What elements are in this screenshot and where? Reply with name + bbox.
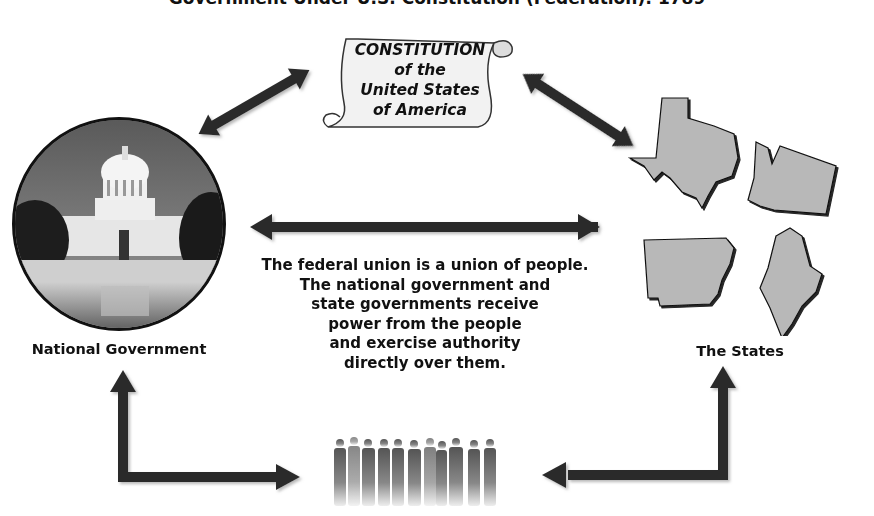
description-line: The national government and xyxy=(250,276,600,296)
arrow-people-national xyxy=(110,370,300,490)
description-line: and exercise authority xyxy=(250,334,600,354)
people-group-icon xyxy=(330,435,530,507)
double-arrow-constitution-national xyxy=(193,60,316,145)
person xyxy=(362,439,375,506)
texas-shape xyxy=(630,98,738,208)
person xyxy=(408,440,421,506)
person xyxy=(449,438,463,506)
states-map-icon xyxy=(626,96,866,336)
arkansas-shape xyxy=(644,238,734,306)
person xyxy=(348,437,360,506)
description-line: The federal union is a union of people. xyxy=(250,256,600,276)
person xyxy=(392,439,404,506)
states-label: The States xyxy=(640,343,840,359)
description-line: power from the people xyxy=(250,315,600,335)
washington-shape xyxy=(748,142,836,214)
national-government-label: National Government xyxy=(0,341,238,357)
constitution-line: United States xyxy=(330,80,510,100)
constitution-text: CONSTITUTION of the United States of Ame… xyxy=(330,40,510,120)
person xyxy=(468,440,480,506)
description-line: directly over them. xyxy=(250,354,600,374)
maine-shape xyxy=(760,228,822,336)
double-arrow-national-states xyxy=(250,214,600,240)
person xyxy=(484,439,496,506)
double-arrow-constitution-states xyxy=(516,64,640,156)
constitution-line: of the xyxy=(330,60,510,80)
person xyxy=(424,438,436,506)
person xyxy=(334,439,346,506)
arrow-people-states xyxy=(542,366,736,488)
federal-union-description: The federal union is a union of people. … xyxy=(250,256,600,374)
constitution-line: CONSTITUTION xyxy=(330,40,510,60)
description-line: state governments receive xyxy=(250,295,600,315)
capitol-building-image xyxy=(12,117,226,331)
constitution-line: of America xyxy=(330,100,510,120)
person xyxy=(436,441,447,506)
person xyxy=(378,439,390,506)
